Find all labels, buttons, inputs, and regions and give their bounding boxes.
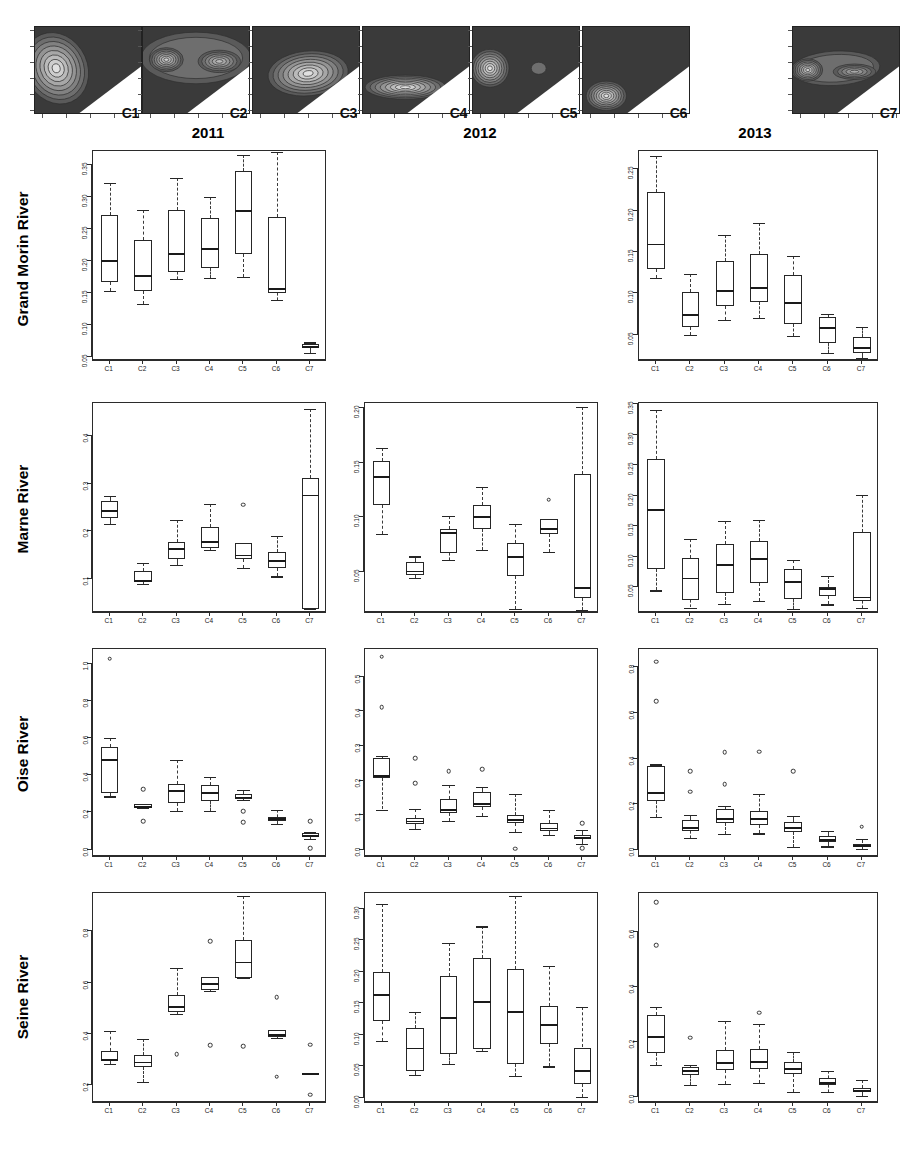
y-axis: 0.00.10.20.30.40.5: [330, 648, 364, 856]
x-tick-label-c4: C4: [205, 617, 213, 624]
x-tick-label-c1: C1: [105, 365, 113, 372]
contour-panel-c3: C3: [238, 22, 360, 122]
x-tick-label-c3: C3: [443, 617, 451, 624]
whisker-cap-lower: [304, 609, 316, 610]
contour-label-c4: C4: [450, 105, 467, 121]
x-tick: [827, 360, 828, 364]
boxplot-panel-marne-river-2013: 0.050.100.150.200.250.300.35C1C2C3C4C5C6…: [604, 398, 882, 638]
x-tick: [481, 856, 482, 860]
year-header-2012: 2012: [400, 124, 560, 141]
y-tick-label: 0.20: [354, 406, 361, 419]
whisker-cap-lower: [576, 1097, 588, 1098]
x-tick: [481, 1102, 482, 1106]
x-tick-label-c7: C7: [305, 617, 313, 624]
x-tick-label-c3: C3: [171, 861, 179, 868]
x-tick: [792, 856, 793, 860]
y-tick-label: 1.0: [82, 661, 89, 670]
boxplot-panel-seine-river-2013: 0.00.20.40.6C1C2C3C4C5C6C7: [604, 888, 882, 1128]
whisker-upper: [862, 495, 863, 532]
box-c7: [365, 649, 597, 855]
y-tick-label: 0.8: [82, 699, 89, 708]
x-tick-label-c7: C7: [305, 861, 313, 868]
whisker-lower: [862, 601, 863, 608]
x-tick-label-c7: C7: [577, 861, 585, 868]
x-tick-label-c2: C2: [410, 1107, 418, 1114]
y-axis: 0.10.20.30.4: [58, 402, 92, 612]
x-tick-label-c2: C2: [138, 861, 146, 868]
x-tick: [242, 856, 243, 860]
x-tick: [758, 612, 759, 616]
y-axis-line: [91, 663, 92, 849]
contour-y-axis: [462, 26, 472, 114]
x-tick-label-c5: C5: [788, 861, 796, 868]
outlier-point: [580, 821, 585, 826]
x-tick: [176, 856, 177, 860]
x-tick: [109, 856, 110, 860]
boxplot-panel-oise-river-2012: 0.00.10.20.30.40.5C1C2C3C4C5C6C7: [330, 644, 602, 882]
x-tick-label-c6: C6: [544, 861, 552, 868]
contour-panel-c1: C1: [20, 22, 142, 122]
x-tick-label-c1: C1: [377, 861, 385, 868]
x-tick-label-c4: C4: [754, 617, 762, 624]
x-tick: [827, 612, 828, 616]
y-tick-label: 0.20: [82, 258, 89, 271]
median-line: [853, 597, 871, 599]
box-c7: [365, 403, 597, 611]
y-tick-label: 0.25: [628, 463, 635, 476]
x-axis: C1C2C3C4C5C6C7: [92, 360, 326, 374]
whisker-cap-lower: [856, 1096, 868, 1097]
box-c7: [93, 649, 325, 855]
x-tick-label-c4: C4: [477, 861, 485, 868]
box-iqr: [853, 532, 871, 601]
x-axis: C1C2C3C4C5C6C7: [364, 612, 598, 626]
x-tick-label-c3: C3: [171, 617, 179, 624]
y-tick-label: 0.0: [82, 847, 89, 856]
y-tick-label: 0.25: [82, 226, 89, 239]
x-tick: [792, 360, 793, 364]
contour-y-axis: [572, 26, 582, 114]
plot-area: [92, 150, 326, 360]
median-line: [302, 835, 319, 837]
x-tick: [142, 1102, 143, 1106]
x-tick-label-c6: C6: [272, 617, 280, 624]
box-c7: [93, 893, 325, 1101]
x-axis: C1C2C3C4C5C6C7: [638, 1102, 878, 1116]
whisker-upper: [310, 409, 311, 478]
x-tick-label-c3: C3: [720, 861, 728, 868]
x-tick-label-c3: C3: [171, 365, 179, 372]
y-axis: 0.20.40.60.8: [58, 892, 92, 1102]
boxplot-panel-grand-morin-river-2013: 0.050.100.150.200.25C1C2C3C4C5C6C7: [604, 146, 882, 386]
x-tick-label-c6: C6: [272, 365, 280, 372]
whisker-cap-upper: [856, 839, 868, 840]
x-tick-label-c7: C7: [305, 365, 313, 372]
x-tick: [758, 1102, 759, 1106]
x-tick: [514, 1102, 515, 1106]
y-axis-line: [363, 676, 364, 849]
y-tick-label: 0.15: [628, 524, 635, 537]
contour-panel-strip: C1C2C3C4C5C6C7: [0, 22, 902, 122]
y-tick-label: 0.20: [628, 208, 635, 221]
x-tick-label-c2: C2: [685, 365, 693, 372]
x-tick: [276, 1102, 277, 1106]
outlier-point: [308, 1042, 313, 1047]
whisker-upper: [582, 1007, 583, 1048]
y-tick-label: 0.1: [354, 813, 361, 822]
x-tick: [724, 1102, 725, 1106]
x-tick-label-c2: C2: [685, 617, 693, 624]
y-tick-label: 0.3: [354, 744, 361, 753]
y-tick-label: 0.0: [628, 1095, 635, 1104]
x-tick-label-c4: C4: [754, 861, 762, 868]
x-tick-label-c6: C6: [272, 861, 280, 868]
box-iqr: [302, 478, 319, 610]
whisker-upper: [862, 1080, 863, 1087]
whisker-cap-upper: [576, 407, 588, 408]
y-tick-label: 0.0: [628, 848, 635, 857]
y-tick-label: 0.4: [82, 1031, 89, 1040]
row-label-marne-river: Marne River: [14, 439, 32, 579]
y-tick-label: 0.10: [82, 322, 89, 335]
x-axis: C1C2C3C4C5C6C7: [638, 856, 878, 870]
contour-label-c6: C6: [670, 105, 687, 121]
row-label-grand-morin-river: Grand Morin River: [14, 189, 32, 329]
x-tick-label-c5: C5: [788, 365, 796, 372]
y-axis: 0.00.20.40.6: [604, 892, 638, 1102]
